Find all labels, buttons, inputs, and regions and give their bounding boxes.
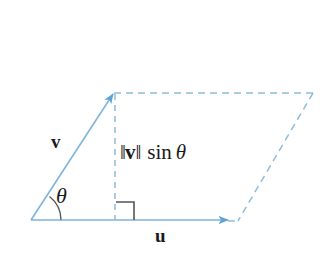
height-expression-label: ‖v‖sinθ xyxy=(120,142,186,163)
norm-vector-v: v xyxy=(125,140,136,164)
norm-bar-close: ‖ xyxy=(135,140,140,164)
vector-v-label: v xyxy=(51,132,61,151)
parallelogram-right-edge xyxy=(238,93,313,221)
angle-theta-label: θ xyxy=(56,185,67,207)
sine-angle-label: θ xyxy=(176,140,186,164)
vector-v-arrow xyxy=(31,94,113,220)
sine-function-label: sin xyxy=(147,140,172,164)
vector-parallelogram-figure: v θ ‖v‖sinθ u xyxy=(0,0,335,279)
vector-u-label: u xyxy=(155,226,166,245)
right-angle-marker xyxy=(116,202,134,220)
